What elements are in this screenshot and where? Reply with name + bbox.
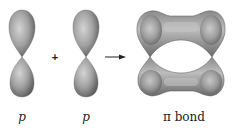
p-orbital-1-bottom-lobe [10, 57, 34, 97]
pi-bond-label: π bond [163, 110, 205, 124]
p-orbital-2-top-lobe [73, 10, 99, 57]
p-orbital-2 [73, 10, 99, 97]
p-orbital-1-top-lobe [9, 10, 35, 57]
p-orbital-1-label: p [18, 110, 26, 124]
pi-bond-orbital [137, 11, 225, 96]
pi-bond-diagram: + p p π bond [0, 0, 237, 130]
plus-operator: + [52, 51, 58, 63]
reaction-arrow-icon [105, 55, 126, 60]
p-orbital-2-label: p [82, 110, 90, 124]
p-orbital-2-bottom-lobe [74, 57, 98, 97]
p-orbital-1 [9, 10, 35, 97]
